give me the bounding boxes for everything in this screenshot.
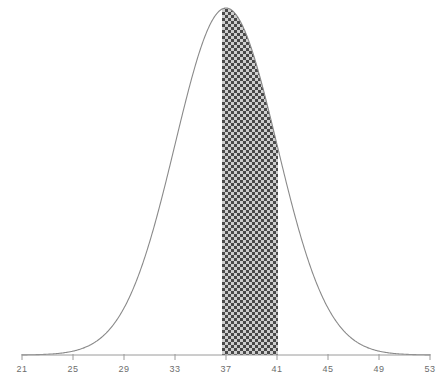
- normal-distribution-figure: 212529333741454953: [0, 0, 445, 385]
- x-axis-label-49: 49: [373, 364, 384, 374]
- x-axis-label-53: 53: [424, 364, 435, 374]
- distribution-plot: 212529333741454953: [0, 0, 445, 385]
- x-axis-label-21: 21: [16, 364, 27, 374]
- shaded-area-path: [22, 8, 430, 355]
- shaded-area-37-to-41: [22, 8, 430, 355]
- x-axis-label-25: 25: [67, 364, 78, 374]
- x-axis-tick-labels: 212529333741454953: [16, 364, 435, 374]
- x-axis-label-45: 45: [322, 364, 333, 374]
- x-axis-label-37: 37: [220, 364, 231, 374]
- x-axis-label-29: 29: [118, 364, 129, 374]
- x-axis-label-41: 41: [271, 364, 282, 374]
- x-axis-label-33: 33: [169, 364, 180, 374]
